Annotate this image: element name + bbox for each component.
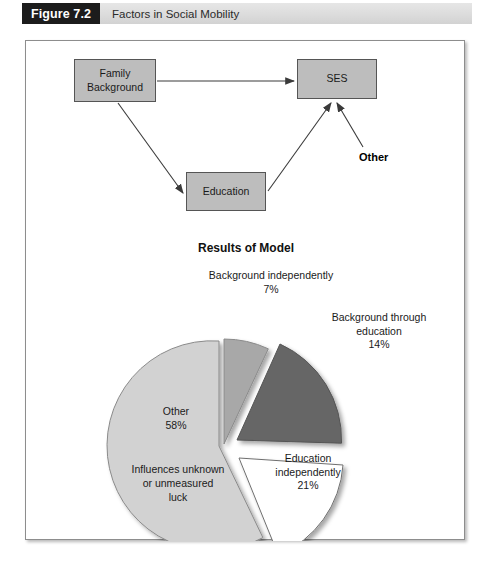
pie-label-text: Other [121,405,231,419]
figure-caption: Factors in Social Mobility [112,3,239,24]
pie-label-text: independently [248,466,368,480]
arrow-family-to-education [118,103,183,193]
pie-label-text: Background through [304,311,454,325]
pie-label-background-through-education: Background through education 14% [304,311,454,352]
pie-label-text: education [304,325,454,339]
diagram-node-ses: SES [297,59,377,99]
pie-label-background-independently: Background independently 7% [176,269,366,296]
figure-frame: FamilyBackground SES Education Other Res… [25,40,465,540]
diagram-node-family-background: FamilyBackground [74,59,156,102]
pie-label-text: or unmeasured [98,477,258,491]
pie-chart-section: Results of Model Background independent [26,231,466,541]
figure-number-badge: Figure 7.2 [22,3,100,24]
diagram-node-label: FamilyBackground [87,67,143,93]
pie-label-text: Influences unknown [98,463,258,477]
diagram-node-education: Education [186,172,266,211]
arrow-education-to-ses [268,103,331,191]
pie-label-other: Other 58% [121,405,231,433]
arrow-other-to-ses [337,103,363,147]
pie-label-text: Education [248,452,368,466]
pie-label-education-independently: Education independently 21% [248,452,368,493]
pie-label-text: luck [98,491,258,505]
pie-label-text: Background independently [176,269,366,283]
pie-label-value: 14% [304,338,454,352]
pie-label-value: 21% [248,479,368,493]
figure-header-bar: Figure 7.2 Factors in Social Mobility [22,3,472,24]
pie-label-unknown-luck: Influences unknown or unmeasured luck [98,463,258,505]
diagram-node-label: Education [203,185,250,198]
pie-label-value: 58% [121,419,231,433]
diagram-label-other: Other [359,151,388,163]
pie-label-value: 7% [176,283,366,297]
diagram-node-label: SES [326,72,347,85]
path-diagram: FamilyBackground SES Education Other [26,41,466,231]
